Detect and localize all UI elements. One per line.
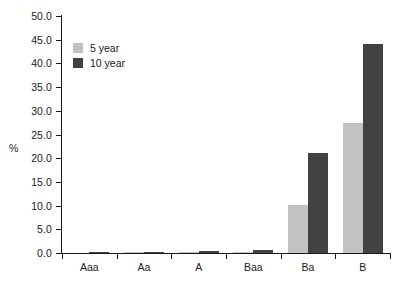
chart-legend: 5 year 10 year xyxy=(73,40,125,70)
x-axis-tick-label-ba: Ba xyxy=(281,261,336,273)
legend-entry-5-year: 5 year xyxy=(73,40,125,55)
legend-swatch-10-year xyxy=(73,58,83,68)
y-axis-tick-label: 25.0 xyxy=(0,129,52,141)
y-axis-tick-label-wrap: 20.0 xyxy=(0,152,52,164)
bar-baa-5-year xyxy=(233,252,253,254)
x-axis-tick xyxy=(62,254,63,259)
y-axis-tick xyxy=(56,63,61,64)
bar-aa-5-year xyxy=(124,252,144,254)
bar-aaa-10-year xyxy=(89,252,109,254)
y-axis-tick-label-wrap: 40.0 xyxy=(0,57,52,69)
x-axis-tick xyxy=(335,254,336,259)
legend-label-5-year: 5 year xyxy=(90,42,119,54)
y-axis-tick-label: 35.0 xyxy=(0,81,52,93)
bar-chart-figure: % 0.05.010.015.020.025.030.035.040.045.0… xyxy=(0,0,410,282)
y-axis-tick-label-wrap: 45.0 xyxy=(0,34,52,46)
bar-ba-10-year xyxy=(308,153,328,253)
y-axis-tick xyxy=(56,253,61,254)
x-axis-tick-label-aaa: Aaa xyxy=(62,261,117,273)
y-axis-tick xyxy=(56,87,61,88)
legend-entry-10-year: 10 year xyxy=(73,55,125,70)
y-axis-tick-label-wrap: 15.0 xyxy=(0,176,52,188)
y-axis-tick-label: 0.0 xyxy=(0,247,52,259)
y-axis-tick-label-wrap: 10.0 xyxy=(0,200,52,212)
bar-b-5-year xyxy=(343,123,363,253)
x-axis-tick xyxy=(390,254,391,259)
y-axis-tick-label-wrap: 35.0 xyxy=(0,81,52,93)
y-axis-tick xyxy=(56,111,61,112)
y-axis-tick-label: 50.0 xyxy=(0,10,52,22)
bar-a-5-year xyxy=(179,252,199,254)
y-axis-tick-label: 40.0 xyxy=(0,57,52,69)
x-axis-tick-label-b: B xyxy=(335,261,390,273)
y-axis-tick-label-wrap: 0.0 xyxy=(0,247,52,259)
y-axis-tick-label-wrap: 5.0 xyxy=(0,223,52,235)
y-axis-tick-label: 20.0 xyxy=(0,152,52,164)
y-axis-tick xyxy=(56,40,61,41)
x-axis-tick-label-baa: Baa xyxy=(226,261,281,273)
x-axis-tick-label-a: A xyxy=(171,261,226,273)
x-axis-tick xyxy=(171,254,172,259)
y-axis-tick-label: 10.0 xyxy=(0,200,52,212)
y-axis-tick xyxy=(56,206,61,207)
y-axis-tick-label: 30.0 xyxy=(0,105,52,117)
bar-ba-5-year xyxy=(288,205,308,253)
x-axis-tick xyxy=(281,254,282,259)
y-axis-tick-label-wrap: 30.0 xyxy=(0,105,52,117)
bar-aa-10-year xyxy=(144,252,164,254)
bar-baa-10-year xyxy=(253,250,273,253)
x-axis-tick-label-aa: Aa xyxy=(117,261,172,273)
y-axis-tick xyxy=(56,135,61,136)
bar-a-10-year xyxy=(199,251,219,253)
y-axis-tick-label-wrap: 25.0 xyxy=(0,129,52,141)
y-axis-tick xyxy=(56,229,61,230)
legend-swatch-5-year xyxy=(73,43,83,53)
y-axis-tick xyxy=(56,182,61,183)
legend-label-10-year: 10 year xyxy=(90,57,125,69)
bar-b-10-year xyxy=(363,44,383,253)
y-axis-tick-label: 15.0 xyxy=(0,176,52,188)
y-axis-tick xyxy=(56,16,61,17)
y-axis-tick-label: 45.0 xyxy=(0,34,52,46)
y-axis-tick-label: 5.0 xyxy=(0,223,52,235)
x-axis-tick xyxy=(117,254,118,259)
y-axis-tick xyxy=(56,158,61,159)
y-axis-tick-label-wrap: 50.0 xyxy=(0,10,52,22)
x-axis-tick xyxy=(226,254,227,259)
